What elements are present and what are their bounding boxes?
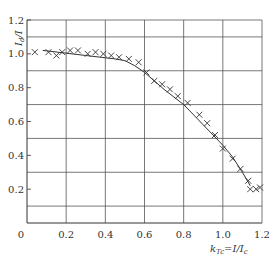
data-point-x-marker	[175, 93, 181, 99]
data-point-x-marker	[67, 47, 73, 53]
data-point-x-marker	[167, 86, 173, 92]
y-tick-label: 1.2	[8, 15, 24, 26]
data-point-x-marker	[196, 112, 202, 118]
data-point-x-marker	[108, 53, 114, 59]
x-tick-label: 0.6	[137, 229, 153, 240]
x-tick-label: 0.2	[58, 229, 74, 240]
data-point-x-marker	[53, 53, 59, 59]
data-point-x-marker	[46, 49, 52, 55]
x-tick-label: 0	[18, 229, 24, 240]
data-point-x-marker	[32, 49, 38, 55]
grid	[27, 20, 262, 223]
chart: 0.20.40.60.81.01.200.20.40.60.81.01.2 Id…	[0, 0, 270, 259]
data-point-x-marker	[247, 186, 253, 192]
y-tick-label: 0.4	[8, 150, 24, 161]
data-point-x-marker	[159, 81, 165, 87]
data-point-x-marker	[237, 166, 243, 172]
x-tick-label: 1.2	[254, 229, 270, 240]
data-point-x-marker	[75, 47, 81, 53]
data-point-x-marker	[126, 56, 132, 62]
data-point-x-marker	[136, 59, 142, 65]
y-tick-label: 0.8	[8, 82, 24, 93]
data-point-x-marker	[93, 49, 99, 55]
x-tick-label: 0.8	[176, 229, 192, 240]
y-axis-label: Id/I	[13, 29, 26, 47]
y-tick-label: 1.0	[8, 48, 24, 59]
data-point-x-marker	[185, 100, 191, 106]
x-tick-label: 0.4	[97, 229, 113, 240]
data-point-x-marker	[151, 78, 157, 84]
x-axis-label: kTc=I/Ic	[210, 243, 248, 256]
x-tick-label: 1.0	[215, 229, 231, 240]
y-tick-label: 0.2	[8, 184, 24, 195]
y-tick-label: 0.6	[8, 116, 24, 127]
data-point-x-marker	[204, 120, 210, 126]
